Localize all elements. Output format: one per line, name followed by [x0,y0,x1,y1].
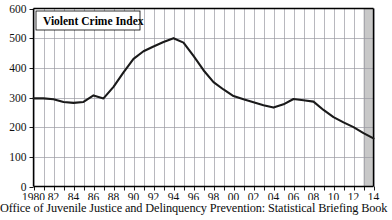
x-tick-label: 96 [188,191,200,200]
violent-crime-index-figure: 19808284868890929496980002040608101214 0… [0,0,392,220]
x-axis-tick-labels: 19808284868890929496980002040608101214 [22,191,380,200]
y-axis-tick-labels: 0100200300400500600 [9,3,27,193]
x-tick-label: 10 [328,191,340,200]
x-tick-label: 92 [148,191,160,200]
x-tick-label: 98 [208,191,220,200]
y-tick-label: 200 [9,121,27,133]
x-tick-label: 84 [68,191,80,200]
x-tick-label: 90 [128,191,140,200]
x-tick-label: 88 [108,191,120,200]
x-tick-label: 14 [368,191,380,200]
x-tick-label: 86 [88,191,100,200]
shaded-forecast-band [364,9,374,187]
y-tick-label: 0 [21,181,27,193]
source-caption: Office of Juvenile Justice and Delinquen… [0,201,392,216]
shaded-band-rect [364,9,374,187]
x-tick-label: 12 [348,191,360,200]
x-tick-label: 00 [228,191,240,200]
x-tick-label: 82 [48,191,60,200]
x-tick-label: 94 [168,191,180,200]
x-tick-label: 06 [288,191,300,200]
legend-label: Violent Crime Index [43,15,144,27]
y-tick-label: 300 [9,92,27,104]
x-tick-label: 02 [248,191,260,200]
violent-crime-index-chart: 19808284868890929496980002040608101214 0… [0,0,392,200]
y-tick-label: 400 [9,62,27,74]
y-tick-label: 600 [9,3,27,15]
x-tick-label: 08 [308,191,320,200]
chart-legend: Violent Crime Index [36,11,144,30]
y-tick-label: 100 [9,151,27,163]
y-tick-label: 500 [9,32,27,44]
x-tick-label: 04 [268,191,280,200]
